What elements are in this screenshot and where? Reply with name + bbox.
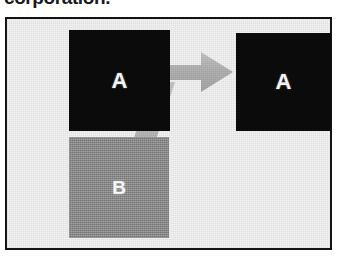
node-box-result-a[interactable]: A	[236, 33, 331, 131]
node-box-source-a[interactable]: A	[69, 30, 170, 131]
node-label-result-a: A	[276, 71, 292, 93]
clipped-caption: corporation.	[4, 0, 204, 11]
node-label-source-a: A	[112, 70, 128, 92]
caption-text: corporation.	[4, 0, 204, 9]
node-box-source-b[interactable]: B	[69, 137, 169, 238]
node-label-source-b: B	[112, 177, 126, 199]
figure-frame: A B A	[5, 17, 332, 250]
figure-canvas: A B A	[7, 19, 330, 248]
